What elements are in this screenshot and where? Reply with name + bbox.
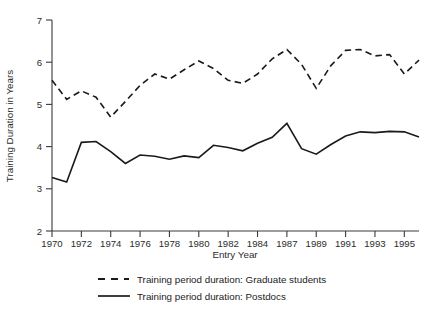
x-tick-label-1987: 1987 [276,238,297,249]
series-line-postdocs [52,123,419,182]
x-tick-label-1989: 1989 [306,238,327,249]
chart-figure: 234567 197019721974197619781980198219841… [0,0,441,309]
data-series-group [52,50,419,183]
x-tick-label-1978: 1978 [159,238,180,249]
x-tick-label-1982: 1982 [217,238,238,249]
legend-label-postdocs: Training period duration: Postdocs [137,291,286,302]
series-line-graduate-students [52,50,419,118]
y-tick-label-5: 5 [37,99,42,110]
legend: Training period duration: Graduate stude… [98,274,326,302]
x-tick-label-1976: 1976 [129,238,150,249]
y-axis-ticks: 234567 [37,15,52,237]
x-tick-label-1993: 1993 [364,238,385,249]
x-axis-title: Entry Year [212,249,258,260]
axes [52,20,419,231]
x-tick-label-1980: 1980 [188,238,209,249]
x-tick-label-1970: 1970 [41,238,62,249]
x-tick-label-1995: 1995 [394,238,415,249]
legend-label-graduate-students: Training period duration: Graduate stude… [137,274,326,285]
y-tick-label-4: 4 [37,141,43,152]
y-tick-label-2: 2 [37,226,42,237]
line-chart: 234567 197019721974197619781980198219841… [0,0,441,309]
x-tick-label-1972: 1972 [71,238,92,249]
x-tick-label-1984: 1984 [247,238,269,249]
y-tick-label-7: 7 [37,15,42,26]
x-tick-label-1991: 1991 [335,238,356,249]
y-tick-label-6: 6 [37,57,42,68]
x-tick-label-1974: 1974 [100,238,122,249]
y-tick-label-3: 3 [37,183,42,194]
x-axis-ticks: 1970197219741976197819801982198419871989… [41,231,415,249]
y-axis-title: Training Duration in Years [4,70,15,182]
